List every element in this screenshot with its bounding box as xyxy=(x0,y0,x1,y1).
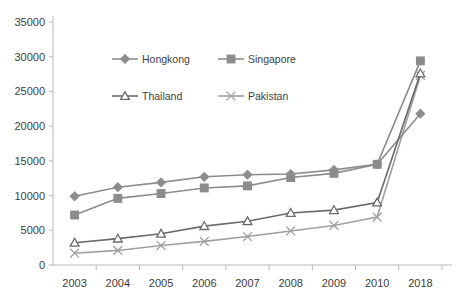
x-tick-label: 2006 xyxy=(192,277,216,289)
diamond-marker xyxy=(70,192,78,200)
diamond-marker xyxy=(243,171,251,179)
data-point-marker xyxy=(244,182,252,190)
legend-label: Hongkong xyxy=(142,53,190,65)
data-point-marker xyxy=(114,183,122,191)
diamond-marker xyxy=(200,173,208,181)
x-tick-label: 2008 xyxy=(278,277,302,289)
data-point-marker xyxy=(157,190,165,198)
triangle-marker xyxy=(373,198,382,206)
x-tick-label: 2018 xyxy=(408,277,432,289)
series-singapore xyxy=(71,57,424,219)
x-tick-label: 2009 xyxy=(322,277,346,289)
data-point-marker xyxy=(114,195,122,203)
square-marker xyxy=(227,55,235,63)
chart-canvas: 0500010000150002000025000300003500020032… xyxy=(0,0,460,300)
legend-item-thailand: Thailand xyxy=(112,90,182,102)
legend-item-hongkong: Hongkong xyxy=(112,53,190,65)
y-tick-label: 15000 xyxy=(14,155,45,167)
legend-label: Singapore xyxy=(248,53,296,65)
x-tick-label: 2004 xyxy=(106,277,130,289)
data-point-marker xyxy=(243,171,251,179)
data-point-marker xyxy=(200,184,208,192)
data-point-marker xyxy=(70,192,78,200)
data-point-marker xyxy=(417,57,425,65)
y-tick-label: 25000 xyxy=(14,85,45,97)
x-tick-label: 2005 xyxy=(149,277,173,289)
series-line-pakistan xyxy=(75,75,421,253)
square-marker xyxy=(71,211,79,219)
x-tick-label: 2007 xyxy=(235,277,259,289)
y-tick-label: 0 xyxy=(39,259,45,271)
x-tick-label: 2003 xyxy=(62,277,86,289)
line-chart: 0500010000150002000025000300003500020032… xyxy=(0,0,460,300)
y-tick-label: 35000 xyxy=(14,16,45,28)
square-marker xyxy=(200,184,208,192)
legend-item-pakistan: Pakistan xyxy=(218,90,288,102)
square-marker xyxy=(157,190,165,198)
data-point-marker xyxy=(373,198,382,206)
legend-label: Pakistan xyxy=(248,90,288,102)
y-tick-label: 20000 xyxy=(14,120,45,132)
square-marker xyxy=(114,195,122,203)
legend-label: Thailand xyxy=(142,90,182,102)
square-marker xyxy=(417,57,425,65)
diamond-marker xyxy=(121,55,129,63)
data-point-marker xyxy=(200,173,208,181)
diamond-marker xyxy=(114,183,122,191)
x-tick-label: 2010 xyxy=(365,277,389,289)
square-marker xyxy=(244,182,252,190)
data-point-marker xyxy=(121,55,129,63)
y-tick-label: 10000 xyxy=(14,190,45,202)
data-point-marker xyxy=(157,178,165,186)
data-point-marker xyxy=(227,55,235,63)
y-tick-label: 30000 xyxy=(14,51,45,63)
data-point-marker xyxy=(71,211,79,219)
series-line-singapore xyxy=(75,61,421,215)
legend-item-singapore: Singapore xyxy=(218,53,296,65)
diamond-marker xyxy=(157,178,165,186)
y-tick-label: 5000 xyxy=(21,224,45,236)
